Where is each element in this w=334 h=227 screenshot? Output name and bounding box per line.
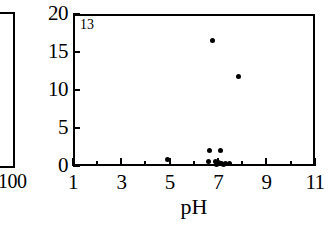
y-axis-tick-label: 15: [28, 41, 68, 62]
adjacent-panel-fragment: [0, 12, 15, 168]
x-axis-tick-label: 9: [247, 172, 287, 193]
x-axis-tick-label: 5: [150, 172, 190, 193]
x-axis-tick-major: [120, 158, 122, 166]
x-axis-tick-label: 3: [101, 172, 141, 193]
data-point: [165, 157, 170, 162]
figure-panel: 100 13 05101520 1357911 pH: [0, 0, 334, 227]
x-axis-tick-minor: [193, 161, 195, 166]
y-axis-tick-label: 20: [28, 3, 68, 24]
data-point: [214, 162, 219, 167]
data-point: [207, 148, 212, 153]
x-axis-tick-minor: [290, 161, 292, 166]
x-axis-tick-major: [72, 158, 74, 166]
y-axis-tick-label: 10: [28, 79, 68, 100]
x-axis-tick-minor: [144, 161, 146, 166]
x-axis-tick-minor: [241, 161, 243, 166]
data-point: [218, 148, 223, 153]
y-axis-tick-label: 5: [28, 117, 68, 138]
panel-label: 13: [80, 18, 94, 32]
y-axis-tick: [73, 51, 80, 53]
x-axis-tick-major: [265, 158, 267, 166]
plot-frame: [73, 14, 315, 166]
adjacent-panel-tick-label: 100: [0, 170, 27, 193]
x-axis-tick-label: 11: [295, 172, 334, 193]
y-axis-tick: [73, 13, 80, 15]
x-axis-tick-minor: [96, 161, 98, 166]
data-point: [227, 161, 232, 166]
x-axis-title: pH: [73, 196, 315, 218]
data-point: [206, 159, 211, 164]
y-axis-tick: [73, 165, 80, 167]
y-axis-tick: [73, 127, 80, 129]
data-point: [210, 38, 215, 43]
data-point: [221, 162, 226, 167]
x-axis-tick-label: 1: [53, 172, 93, 193]
x-axis-tick-major: [314, 158, 316, 166]
x-axis-tick-label: 7: [198, 172, 238, 193]
y-axis-tick: [73, 89, 80, 91]
